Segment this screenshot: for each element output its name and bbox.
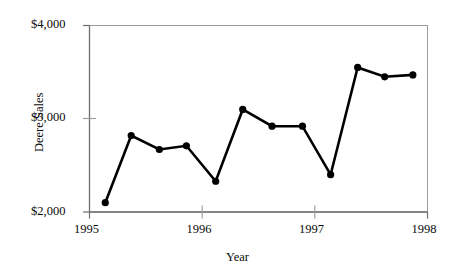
x-axis-title: Year bbox=[226, 250, 249, 265]
data-point bbox=[239, 106, 246, 113]
line-chart: $4,000 $3,000 $2,000 1995 1996 1997 1998… bbox=[0, 0, 462, 279]
data-point bbox=[212, 178, 219, 185]
data-point bbox=[327, 171, 334, 178]
y-axis-title: Deere Sales bbox=[32, 93, 47, 152]
data-point bbox=[409, 71, 416, 78]
data-point bbox=[102, 199, 109, 206]
x-axis-tick-label-1997: 1997 bbox=[299, 222, 324, 237]
data-point bbox=[156, 146, 163, 153]
x-axis-tick-label-1995: 1995 bbox=[74, 222, 99, 237]
y-axis-tick-label-4000: $4,000 bbox=[31, 17, 65, 32]
data-point bbox=[299, 123, 306, 130]
y-axis-tick-label-2000: $2,000 bbox=[31, 204, 65, 219]
data-point bbox=[381, 73, 388, 80]
data-point bbox=[183, 142, 190, 149]
chart-plot-area bbox=[0, 0, 462, 279]
x-axis-tick-label-1996: 1996 bbox=[187, 222, 212, 237]
data-point bbox=[354, 64, 361, 71]
data-point bbox=[268, 123, 275, 130]
x-axis-tick-label-1998: 1998 bbox=[412, 222, 437, 237]
data-point bbox=[128, 132, 135, 139]
